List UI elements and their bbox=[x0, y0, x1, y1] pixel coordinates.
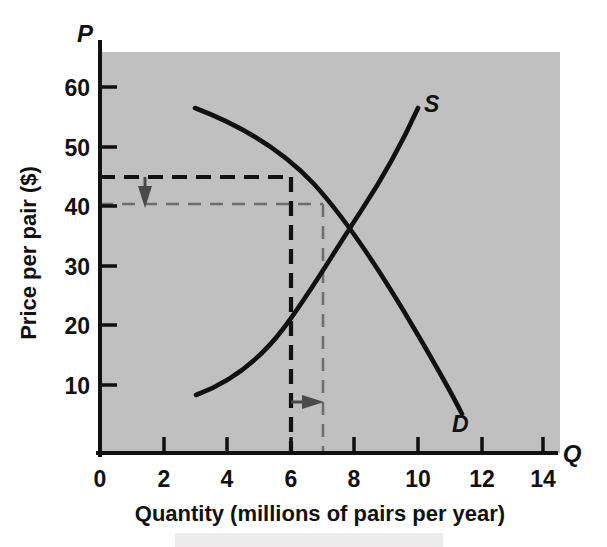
y-tick-label-30: 30 bbox=[64, 254, 90, 280]
x-tick-label-14: 14 bbox=[530, 466, 556, 492]
x-tick-label-2: 2 bbox=[158, 466, 171, 492]
y-tick-label-10: 10 bbox=[64, 373, 90, 399]
y-tick-label-20: 20 bbox=[64, 313, 90, 339]
x-tick-label-0: 0 bbox=[94, 466, 107, 492]
x-tick-labels: 0 2 4 6 8 10 12 14 bbox=[94, 466, 556, 492]
x-tick-label-10: 10 bbox=[405, 466, 431, 492]
y-axis-symbol: P bbox=[77, 20, 94, 47]
y-axis-title: Price per pair ($) bbox=[16, 166, 41, 340]
x-tick-label-6: 6 bbox=[285, 466, 298, 492]
y-tick-label-50: 50 bbox=[64, 135, 90, 161]
x-tick-label-12: 12 bbox=[469, 466, 495, 492]
supply-demand-figure: 60 50 40 30 20 10 0 2 4 6 8 10 12 14 P Q… bbox=[0, 0, 607, 547]
supply-curve-label: S bbox=[424, 91, 440, 117]
x-axis-symbol: Q bbox=[563, 440, 582, 467]
demand-curve-label: D bbox=[452, 411, 469, 437]
page-smudge bbox=[175, 533, 443, 547]
y-tick-labels: 60 50 40 30 20 10 bbox=[64, 75, 90, 399]
x-tick-label-4: 4 bbox=[221, 466, 234, 492]
x-axis-title: Quantity (millions of pairs per year) bbox=[135, 501, 505, 526]
y-tick-label-60: 60 bbox=[64, 75, 90, 101]
x-tick-label-8: 8 bbox=[348, 466, 361, 492]
chart-canvas: 60 50 40 30 20 10 0 2 4 6 8 10 12 14 P Q… bbox=[0, 0, 607, 547]
y-tick-label-40: 40 bbox=[64, 194, 90, 220]
paper-grain bbox=[100, 52, 560, 453]
